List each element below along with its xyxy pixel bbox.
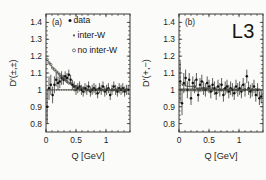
legend-label: no inter-W [78,45,119,55]
y-tick-label: 1.1 [30,68,42,78]
data-point [192,82,195,85]
inter-w-point [58,89,60,91]
data-point [255,94,257,97]
y-tick-label: 1.2 [163,51,175,61]
inter-w-point [53,89,55,91]
x-tick-label: 0 [177,135,182,145]
inter-w-point [186,86,188,88]
inter-w-point [46,89,48,91]
data-point [51,94,54,97]
inter-w-point [191,86,193,88]
legend-marker-inter-w [73,34,75,36]
x-tick-label: 0 [44,135,49,145]
inter-w-point [194,86,196,88]
x-tick-label: 1 [104,135,109,145]
x-tick-label: 0.5 [70,135,82,145]
inter-w-point [184,84,186,86]
data-point [50,84,53,87]
data-point [184,77,187,80]
y-tick-label: 0.8 [163,119,175,129]
data-point [220,84,223,87]
y-tick-label: 1.1 [163,68,175,78]
panel-tag: (a) [52,18,62,27]
data-point [109,94,112,97]
data-point [59,80,62,83]
y-tick-label: 1.2 [30,51,42,61]
data-point [217,85,220,88]
data-point [199,84,202,87]
inter-w-point [68,89,70,91]
inter-w-point [51,89,53,91]
x-axis-title: Q [GeV] [71,151,104,161]
data-point [253,85,256,88]
panel-tag: (b) [185,18,195,27]
data-point [215,92,218,95]
data-point [260,95,263,98]
y-tick-label: 0.9 [30,102,42,112]
y-tick-label: 0.9 [163,102,175,112]
inter-w-point [73,89,75,91]
inter-w-point [49,89,51,91]
data-point [181,102,184,105]
y-tick-label: 1 [170,85,175,95]
inter-w-point [182,84,184,86]
data-point [197,94,200,97]
y-tick-label: 0.8 [30,119,42,129]
data-point [190,97,193,100]
data-point [246,75,249,78]
y-axis-title: D'(+,−) [141,59,151,87]
y-tick-label: 1 [37,85,42,95]
legend-label: inter-W [78,30,107,40]
inter-w-point [61,89,63,91]
experiment-logo: L3 [232,20,255,42]
inter-w-point [70,89,72,91]
inter-w-point [189,86,191,88]
x-tick-label: 1 [237,135,242,145]
data-point [206,82,209,85]
inter-w-point [179,82,181,84]
data-point [53,84,56,87]
data-point [226,85,229,88]
data-point [195,78,198,81]
data-point [242,84,245,87]
data-point [46,105,49,108]
y-tick-label: 1.3 [163,34,175,44]
data-point [201,80,204,83]
inter-w-point [63,89,65,91]
y-tick-label: 1.4 [30,17,42,27]
inter-w-point [65,89,67,91]
inter-w-point [56,89,58,91]
data-point [222,94,225,97]
data-point [69,78,72,81]
y-axis-title: D'(±,±) [8,59,18,86]
y-tick-label: 1.3 [30,34,42,44]
data-point [55,78,58,81]
inter-w-point [75,89,77,91]
figure-two-panel-correlation: 0.80.911.11.21.31.400.51 Q [GeV]D'(±,±)(… [0,0,266,180]
panel-b-canvas: 0.80.911.11.21.31.400.51 Q [GeV]D'(+,−)(… [133,0,266,180]
data-point [87,85,90,88]
data-point [211,84,214,87]
panel-a-canvas: 0.80.911.11.21.31.400.51 Q [GeV]D'(±,±)(… [0,0,133,180]
data-point [235,85,238,88]
y-tick-label: 1.4 [163,17,175,27]
data-point [233,92,236,95]
data-point [188,78,191,81]
data-point [68,73,71,76]
data-point [113,85,116,88]
legend-marker-no-inter-w [73,49,76,52]
data-point [96,92,99,95]
data-point [102,85,105,88]
panel-b: 0.80.911.11.21.31.400.51 Q [GeV]D'(+,−)(… [133,0,266,180]
panel-a: 0.80.911.11.21.31.400.51 Q [GeV]D'(±,±)(… [0,0,133,180]
x-axis-title: Q [GeV] [204,151,237,161]
x-tick-label: 0.5 [203,135,215,145]
legend-label: data [74,15,91,25]
legend-marker-data [69,19,72,22]
